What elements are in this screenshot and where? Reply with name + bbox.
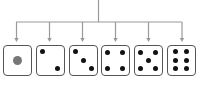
pip-icon [146, 58, 151, 63]
pip-icon [73, 49, 78, 54]
arrowhead-icon [113, 38, 117, 42]
pip-icon [173, 58, 178, 63]
pip-icon [153, 66, 158, 71]
die-face-4 [101, 45, 130, 76]
pip-icon [184, 49, 189, 54]
pip-icon [13, 56, 22, 65]
arrowhead-icon [180, 38, 184, 42]
die-face-1 [3, 45, 32, 76]
pip-icon [120, 66, 125, 71]
pip-icon [138, 50, 143, 55]
pip-icon [40, 49, 45, 54]
arrowhead-icon [146, 38, 150, 42]
die-face-5 [134, 45, 163, 76]
arrowhead-icon [80, 38, 84, 42]
die-face-6 [167, 45, 196, 76]
die-face-3 [69, 45, 98, 76]
pip-icon [173, 49, 178, 54]
die-face-2 [36, 45, 65, 76]
pip-icon [184, 58, 189, 63]
pip-icon [153, 50, 158, 55]
arrowhead-icon [14, 38, 18, 42]
pip-icon [89, 66, 94, 71]
pip-icon [55, 66, 60, 71]
pip-icon [173, 66, 178, 71]
pip-icon [138, 66, 143, 71]
pip-icon [105, 50, 110, 55]
pip-icon [184, 66, 189, 71]
pip-icon [81, 58, 86, 63]
pip-icon [120, 50, 125, 55]
pip-icon [105, 66, 110, 71]
arrowhead-icon [47, 38, 51, 42]
